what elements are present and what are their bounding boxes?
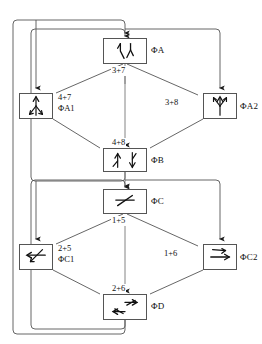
edge-label-phi-a2-transition: 3+8 [164, 98, 179, 108]
edge-label-phi-c1-transition: 2+5 [57, 244, 72, 254]
node-phi-c[interactable] [103, 189, 147, 214]
horizontal-line-slash-icon [104, 190, 146, 213]
node-phi-c2[interactable] [203, 244, 237, 270]
two-horizontal-arrows-icon [104, 295, 146, 319]
node-phi-a[interactable] [103, 38, 147, 64]
upward-branch-arrows-icon [20, 94, 52, 118]
edge-label-phi-a1-name: ΦA1 [57, 104, 76, 114]
node-phi-d[interactable] [103, 294, 147, 320]
edge-label-phi-c1-name: ΦC1 [57, 255, 75, 265]
node-label-phi-c2: ΦC2 [240, 252, 258, 262]
node-phi-c1[interactable] [19, 244, 53, 270]
node-label-phi-b: ΦB [151, 155, 164, 165]
node-phi-b[interactable] [103, 148, 147, 172]
two-slanted-strokes-icon [104, 39, 146, 63]
y-fork-up-arrows-icon [204, 94, 236, 118]
edge-label-phi-a1-transition: 4+7 [57, 93, 72, 103]
right-pointing-fork-icon [204, 245, 236, 269]
edge-label-phi-a-out: 3+7 [111, 66, 126, 76]
edge-label-phi-c2-transition: 1+6 [163, 249, 178, 259]
edge-label-phi-c-out: 1+5 [111, 216, 126, 226]
edge-label-phi-d-in: 2+6 [111, 284, 126, 294]
edge-label-phi-b-in: 4+8 [111, 138, 126, 148]
node-phi-a1[interactable] [19, 93, 53, 119]
node-label-phi-a2: ΦA2 [240, 101, 258, 111]
diagram-canvas: ΦA ΦA2 ΦB ΦC ΦC2 ΦD 3+7 4+7 ΦA1 3+8 4+8 … [0, 0, 262, 344]
two-vertical-arrow-pair-icon [104, 149, 146, 171]
node-label-phi-a: ΦA [151, 45, 164, 55]
node-phi-a2[interactable] [203, 93, 237, 119]
node-label-phi-d: ΦD [151, 301, 164, 311]
left-pointing-fork-icon [20, 245, 52, 269]
node-label-phi-c: ΦC [151, 196, 164, 206]
